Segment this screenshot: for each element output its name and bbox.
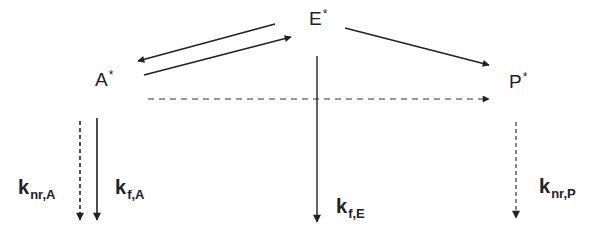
state-a-mark: *: [109, 68, 114, 82]
rate-knr-a-base: k: [18, 176, 29, 198]
rate-knr-a: knr,A: [18, 177, 55, 201]
rate-kf-a: kf,A: [115, 177, 144, 201]
arrow-e-to-p: [345, 28, 489, 65]
rate-kf-e-sub: f,E: [348, 206, 365, 221]
rate-knr-p-base: k: [539, 175, 550, 197]
rate-knr-a-sub: nr,A: [30, 187, 55, 202]
state-p-mark: *: [523, 70, 528, 84]
rate-knr-p-sub: nr,P: [551, 186, 576, 201]
rate-kf-e: kf,E: [336, 196, 365, 220]
rate-kf-e-base: k: [336, 195, 347, 217]
rate-kf-a-sub: f,A: [127, 187, 144, 202]
state-e: E*: [309, 8, 327, 28]
rate-kf-a-base: k: [115, 176, 126, 198]
state-a-symbol: A: [95, 69, 108, 90]
state-a: A*: [95, 69, 113, 89]
state-p-symbol: P: [509, 71, 522, 92]
rate-knr-p: knr,P: [539, 176, 576, 200]
state-e-mark: *: [323, 7, 328, 21]
kinetic-diagram: E* A* P* knr,A kf,A kf,E knr,P: [0, 0, 598, 236]
arrow-e-to-a: [138, 24, 275, 61]
arrows-layer: [0, 0, 598, 236]
arrow-a-to-e: [144, 37, 291, 75]
state-p: P*: [509, 71, 527, 91]
state-e-symbol: E: [309, 8, 322, 29]
